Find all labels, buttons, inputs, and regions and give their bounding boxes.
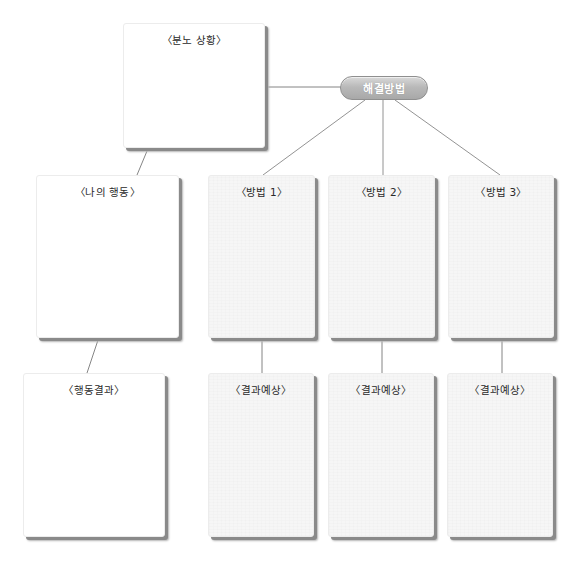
method-3-result-card: 〈결과예상〉 — [447, 373, 553, 537]
method-3-card: 〈방법 3〉 — [448, 175, 554, 338]
action-result-card: 〈행동결과〉 — [23, 373, 165, 537]
method-1-title: 〈방법 1〉 — [209, 184, 314, 199]
method-2-result-card: 〈결과예상〉 — [328, 373, 434, 537]
solution-hub-label: 해결방법 — [363, 80, 405, 96]
method-2-result-title: 〈결과예상〉 — [329, 382, 433, 397]
method-3-title: 〈방법 3〉 — [449, 184, 553, 199]
connector-hub-to-method-1 — [263, 100, 365, 175]
method-2-title: 〈방법 2〉 — [329, 184, 434, 199]
connector-my-action-to-result — [87, 340, 98, 373]
situation-card: 〈분노 상황〉 — [123, 23, 265, 148]
my-action-title: 〈나의 행동〉 — [37, 184, 178, 199]
action-result-title: 〈행동결과〉 — [24, 382, 164, 397]
anger-resolution-diagram: 〈분노 상황〉 해결방법 〈나의 행동〉 〈방법 1〉 〈방법 2〉 〈방법 3… — [0, 0, 587, 575]
connector-hub-to-method-3 — [395, 100, 500, 175]
method-1-card: 〈방법 1〉 — [208, 175, 315, 338]
situation-title: 〈분노 상황〉 — [124, 32, 264, 47]
method-2-card: 〈방법 2〉 — [328, 175, 435, 338]
method-1-result-title: 〈결과예상〉 — [209, 382, 313, 397]
my-action-card: 〈나의 행동〉 — [36, 175, 179, 338]
connector-situation-to-my-action — [137, 151, 147, 175]
method-1-result-card: 〈결과예상〉 — [208, 373, 314, 537]
method-3-result-title: 〈결과예상〉 — [448, 382, 552, 397]
solution-hub: 해결방법 — [340, 76, 428, 100]
